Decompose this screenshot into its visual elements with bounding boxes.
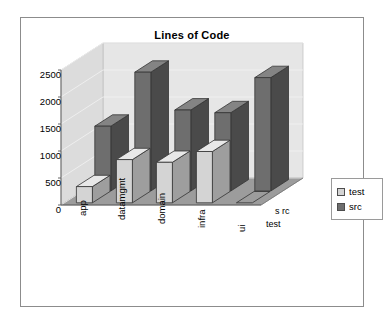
legend-swatch-src <box>337 203 345 211</box>
plot-area <box>21 18 365 308</box>
x-label-infra: infra <box>196 210 207 228</box>
legend-label-src: src <box>349 201 362 212</box>
legend: test src <box>331 178 383 220</box>
y-axis-tick-labels: 2500 2000 1500 1000 500 0 <box>23 18 61 308</box>
depth-label-src: s rc <box>275 206 290 216</box>
legend-item-test[interactable]: test <box>337 184 378 199</box>
legend-label-test: test <box>349 186 364 197</box>
y-tick-1000: 1000 <box>25 151 61 161</box>
y-tick-1500: 1500 <box>25 124 61 134</box>
y-tick-2500: 2500 <box>25 70 61 80</box>
x-label-ui: ui <box>236 225 247 232</box>
y-tick-0: 0 <box>25 205 61 215</box>
legend-swatch-test <box>337 188 345 196</box>
x-label-datamgmt: datamgmt <box>116 178 127 220</box>
y-tick-2000: 2000 <box>25 97 61 107</box>
chart-frame: Lines of Code 2500 2000 1500 1000 500 0 … <box>20 17 364 307</box>
legend-item-src[interactable]: src <box>337 199 378 214</box>
x-label-domain: domain <box>156 193 167 224</box>
x-label-app: app <box>77 200 88 216</box>
depth-label-test: test <box>266 219 281 229</box>
y-tick-500: 500 <box>25 178 61 188</box>
